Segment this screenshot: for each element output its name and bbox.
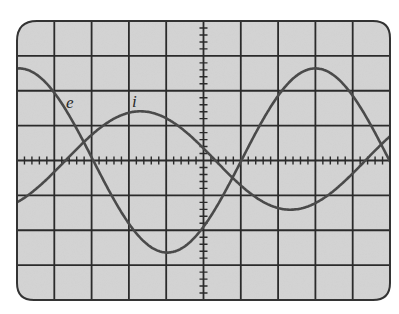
oscilloscope-screen: e i (0, 0, 399, 314)
label-i: i (132, 92, 137, 111)
label-e: e (66, 93, 74, 112)
